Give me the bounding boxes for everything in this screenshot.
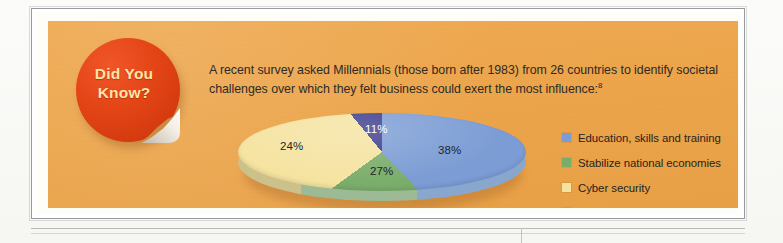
legend-label-cyber: Cyber security bbox=[578, 182, 650, 194]
callout-intro-paragraph: A recent survey asked Millennials (those… bbox=[209, 61, 729, 99]
legend-label-education: Education, skills and training bbox=[578, 132, 721, 144]
pie-slice-label-cyber: 24% bbox=[280, 140, 303, 152]
callout-orange-panel: Did You Know? A recent survey asked Mill… bbox=[48, 21, 738, 208]
page-column-divider bbox=[521, 228, 522, 243]
pie-slice-label-stabilize: 27% bbox=[370, 165, 393, 177]
legend-item-education: Education, skills and training bbox=[562, 125, 738, 150]
intro-text: A recent survey asked Millennials (those… bbox=[209, 63, 718, 96]
callout-inner-mat: Did You Know? A recent survey asked Mill… bbox=[36, 13, 740, 214]
legend-item-cyber: Cyber security bbox=[562, 175, 738, 200]
footnote-marker: 8 bbox=[598, 81, 602, 90]
legend-label-stabilize: Stabilize national economies bbox=[578, 157, 721, 169]
badge-line-2: Know? bbox=[98, 84, 151, 101]
legend-swatch-education bbox=[562, 133, 571, 142]
did-you-know-callout: Did You Know? A recent survey asked Mill… bbox=[31, 8, 745, 219]
did-you-know-badge: Did You Know? bbox=[76, 38, 183, 145]
pie-chart-stage bbox=[232, 107, 532, 207]
pie-slice-label-education: 38% bbox=[438, 144, 461, 156]
badge-line-1: Did You bbox=[95, 65, 154, 82]
chart-legend: Education, skills and training Stabilize… bbox=[562, 125, 738, 208]
pie-slice-label-other: 11% bbox=[365, 123, 387, 135]
pie-chart: 38% 27% 24% 11% bbox=[232, 107, 532, 207]
legend-item-stabilize: Stabilize national economies bbox=[562, 150, 738, 175]
badge-text: Did You Know? bbox=[95, 65, 154, 103]
page-bottom-rule bbox=[31, 228, 745, 229]
legend-swatch-cyber bbox=[562, 183, 571, 192]
legend-item-other: Other bbox=[562, 200, 738, 208]
legend-swatch-stabilize bbox=[562, 158, 571, 167]
page-bottom-rule-secondary bbox=[31, 233, 745, 234]
legend-label-other: Other bbox=[578, 207, 606, 209]
